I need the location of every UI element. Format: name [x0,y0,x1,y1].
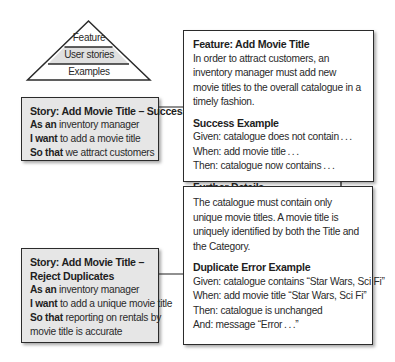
feature-card: Feature: Add Movie Title In order to att… [183,30,374,182]
success-step-when: When: add movie title . . . [193,145,364,160]
pyramid-label-user-stories: User stories [29,49,149,60]
duplicate-step-and: And: message “Error . . .” [193,318,363,333]
duplicate-example-heading: Duplicate Error Example [193,260,363,275]
story-card-reject-duplicates: Story: Add Movie Title – Reject Duplicat… [21,248,159,343]
story-as-an: As an inventory manager [30,118,150,132]
story-card-success: Story: Add Movie Title – Success As an i… [21,97,159,161]
story-so-that: So that reporting on rentals by [30,311,150,325]
story-title-line2: Reject Duplicates [30,269,150,283]
duplicate-card: The catalogue must contain only unique m… [183,186,373,345]
pyramid-label-feature: Feature [29,32,149,43]
success-step-given: Given: catalogue does not contain . . . [193,130,364,145]
pyramid-label-examples: Examples [29,66,149,77]
duplicate-step-given: Given: catalogue contains “Star Wars, Sc… [193,275,363,290]
duplicate-step-when: When: add movie title “Star Wars, Sci Fi… [193,289,363,304]
story-i-want: I want to add a movie title [30,132,150,146]
story-so-that-cont: movie title is accurate [30,325,150,339]
feature-title: Feature: Add Movie Title [193,37,364,52]
story-title: Story: Add Movie Title – Success [30,104,150,118]
story-so-that: So that we attract customers [30,146,150,160]
feature-description: In order to attract customers, an invent… [193,52,364,110]
story-i-want: I want to add a unique movie title [30,297,150,311]
success-example-heading: Success Example [193,116,364,131]
story-title-line1: Story: Add Movie Title – [30,255,150,269]
duplicate-rule: The catalogue must contain only unique m… [193,196,363,254]
story-as-an: As an inventory manager [30,283,150,297]
duplicate-step-then: Then: catalogue is unchanged [193,304,363,319]
success-step-then: Then: catalogue now contains . . . [193,159,364,174]
